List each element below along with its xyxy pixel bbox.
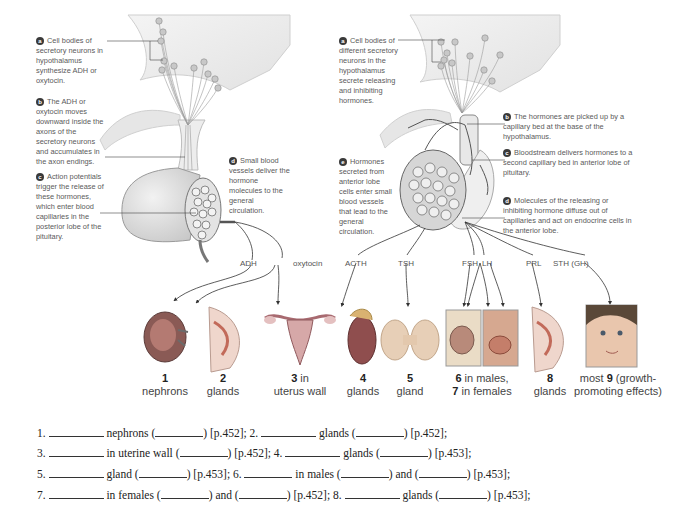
hormone-label-prl: PRL (526, 259, 542, 268)
mammary-gland-image (209, 307, 239, 372)
gonads-image (446, 310, 518, 366)
badge-c-icon: c (503, 149, 511, 157)
question-line-2: 3. in uterine wall () [p.452]; 4. glands… (37, 447, 471, 459)
answer-blank-1-hormone[interactable] (155, 427, 203, 437)
right-pituitary (400, 115, 494, 230)
right-note-d: dMolecules of the releasing or inhibitin… (503, 196, 633, 236)
right-note-a: aCell bodies of different secretory neur… (339, 36, 403, 106)
badge-c-icon: c (36, 173, 44, 181)
badge-e-icon: e (339, 158, 347, 166)
answer-blank-3-hormone[interactable] (180, 447, 228, 457)
answer-blank-6[interactable] (244, 468, 292, 478)
badge-a-icon: a (36, 37, 44, 45)
answer-blank-2-hormone[interactable] (356, 427, 404, 437)
kidney-image (144, 312, 188, 362)
left-note-b: bThe ADH or oxytocin moves downward insi… (36, 97, 106, 167)
target-caption-4: 4glands (340, 372, 386, 398)
hormone-label-adh: ADH (240, 259, 257, 268)
baby-face-image (586, 305, 637, 367)
answer-blank-5[interactable] (49, 468, 104, 478)
answer-blank-5-hormone[interactable] (139, 468, 187, 478)
left-note-c: cAction potentials trigger the release o… (36, 172, 110, 242)
hormone-label-fsh: FSH (462, 259, 478, 268)
answer-blank-7-hormone-a[interactable] (161, 489, 209, 499)
left-note-a: aCell bodies of secretory neurons in hyp… (36, 36, 104, 86)
left-hypothalamus (100, 15, 290, 170)
question-line-3: 5. gland () [p.453]; 6. in males () and … (37, 468, 510, 480)
left-note-d: dSmall blood vessels deliver the hormone… (229, 156, 291, 216)
right-hormone-arrows (342, 263, 610, 305)
hormone-label-oxytocin: oxytocin (293, 259, 322, 268)
target-caption-5: 5gland (390, 372, 430, 398)
target-caption-8: 8glands (530, 372, 570, 398)
answer-blank-8[interactable] (345, 489, 400, 499)
badge-d-icon: d (503, 197, 511, 205)
answer-blank-1[interactable] (49, 427, 104, 437)
target-caption-3: 3 inuterus wall (265, 372, 335, 398)
adrenal-kidney-image (348, 309, 376, 364)
answer-blank-3[interactable] (49, 447, 104, 457)
target-caption-1: 1nephrons (135, 372, 195, 398)
target-caption-2: 2glands (200, 372, 246, 398)
badge-b-icon: b (36, 98, 44, 106)
hormone-label-lh: LH (482, 259, 492, 268)
target-caption-6-7: 6 in males,7 in females (445, 372, 519, 398)
thyroid-image (381, 320, 439, 360)
hormone-label-tsh: TSH (398, 259, 414, 268)
badge-d-icon: d (229, 157, 237, 165)
uterus-image (264, 316, 336, 365)
question-line-4: 7. in females () and () [p.452]; 8. glan… (37, 489, 531, 501)
answer-blank-8-hormone[interactable] (439, 489, 487, 499)
badge-b-icon: b (503, 113, 511, 121)
right-note-b: bThe hormones are picked up by a capilla… (503, 112, 628, 142)
answer-blank-6-hormone-b[interactable] (419, 468, 467, 478)
answer-blank-4[interactable] (285, 447, 340, 457)
right-note-c: cBloodstream delivers hormones to a seco… (503, 148, 633, 178)
hormone-label-sth-gh: STH (GH) (553, 259, 589, 268)
left-pituitary (122, 168, 235, 262)
answer-blank-7[interactable] (49, 489, 104, 499)
answer-blank-6-hormone-a[interactable] (341, 468, 389, 478)
question-line-1: 1. nephrons () [p.452]; 2. glands () [p.… (37, 427, 447, 439)
answer-blank-2[interactable] (261, 427, 316, 437)
badge-a-icon: a (339, 37, 347, 45)
target-caption-9: most 9 (growth-promoting effects) (568, 372, 668, 398)
left-hormone-arrows (175, 265, 279, 303)
right-note-e: eHormones secreted from anterior lobe ce… (339, 157, 394, 237)
mammary-gland-2-image (532, 307, 563, 372)
answer-blank-4-hormone[interactable] (380, 447, 428, 457)
hormone-label-acth: ACTH (345, 259, 367, 268)
answer-blank-7-hormone-b[interactable] (239, 489, 287, 499)
